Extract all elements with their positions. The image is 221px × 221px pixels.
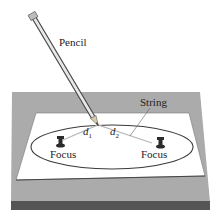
focus-right-label: Focus [141,148,167,160]
focus-left-label: Focus [50,148,76,160]
d2-sub: 2 [116,132,120,140]
ellipse-diagram [0,0,221,221]
string-label: String [140,96,167,108]
pencil-label: Pencil [59,36,87,48]
board-edge [11,201,210,210]
d2-label: d2 [110,125,119,140]
d1-sub: 1 [89,132,93,140]
paper [16,113,205,180]
d1-label: d1 [83,125,92,140]
